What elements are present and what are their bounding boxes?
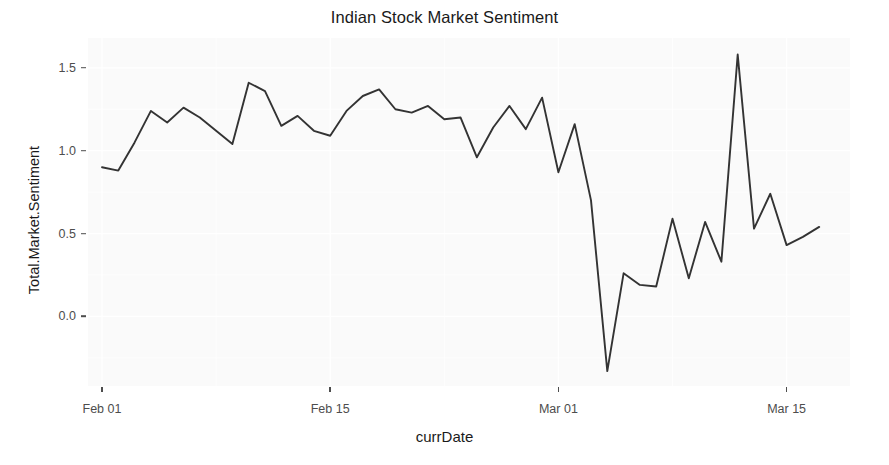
x-tick-label: Feb 15 [285,402,375,416]
y-tick-mark [81,316,86,318]
plot-panel [88,38,850,386]
x-tick-label: Mar 15 [742,402,832,416]
x-tick-mark [329,387,331,392]
y-tick-mark [81,233,86,235]
x-tick-label: Mar 01 [513,402,603,416]
y-axis-label: Total.Market.Sentiment [26,70,42,370]
y-tick-label: 0.0 [36,309,76,323]
y-tick-label: 1.5 [36,61,76,75]
x-tick-mark [101,387,103,392]
y-tick-label: 1.0 [36,144,76,158]
series-line-total-market-sentiment [102,55,819,372]
x-tick-mark [786,387,788,392]
chart-figure: Indian Stock Market Sentiment Total.Mark… [0,0,889,465]
page-title: Indian Stock Market Sentiment [0,8,889,27]
x-axis-label: currDate [0,428,889,445]
series-plot-area [88,38,850,386]
y-tick-mark [81,150,86,152]
y-tick-label: 0.5 [36,227,76,241]
y-tick-mark [81,67,86,69]
x-tick-mark [558,387,560,392]
x-tick-label: Feb 01 [57,402,147,416]
